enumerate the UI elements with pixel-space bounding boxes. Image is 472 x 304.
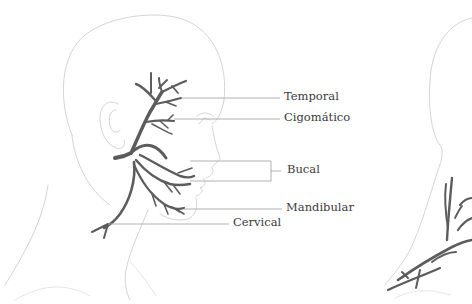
buccal-bracket	[190, 161, 271, 181]
label-mandibular: Mandibular	[286, 202, 354, 214]
facial-nerve-diagram: Temporal Cigomático Bucal Mandibular Cer…	[0, 0, 472, 304]
facial-nerve	[92, 73, 194, 238]
diagram-canvas	[0, 0, 472, 304]
second-head-outline	[385, 18, 472, 298]
label-buccal: Bucal	[287, 164, 320, 176]
label-temporal: Temporal	[284, 91, 339, 103]
label-zygomatic: Cigomático	[284, 112, 350, 124]
label-cervical: Cervical	[233, 217, 281, 229]
